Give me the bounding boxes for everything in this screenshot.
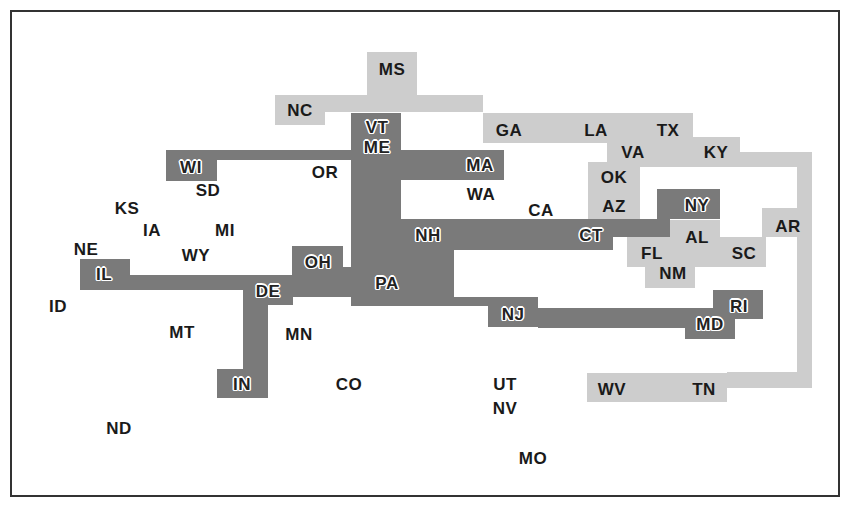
state-label-fl: FL <box>641 245 663 262</box>
state-label-ok: OK <box>601 169 628 186</box>
state-label-ct: CT <box>579 227 603 244</box>
dark-cluster-region <box>401 250 454 306</box>
light-cluster-region <box>797 152 812 388</box>
dark-cluster-region <box>538 308 685 328</box>
state-label-ny: NY <box>685 197 710 214</box>
state-label-wy: WY <box>182 247 210 264</box>
state-label-tx: TX <box>657 122 680 139</box>
state-label-sc: SC <box>732 245 757 262</box>
state-label-nv: NV <box>493 400 518 417</box>
state-label-nm: NM <box>659 265 686 282</box>
state-label-ia: IA <box>143 222 161 239</box>
dark-cluster-region <box>292 267 351 297</box>
state-label-oh: OH <box>305 254 332 271</box>
state-label-nh: NH <box>415 227 441 244</box>
state-label-md: MD <box>696 316 723 333</box>
dark-cluster-region <box>613 219 670 237</box>
state-label-ri: RI <box>730 298 748 315</box>
state-label-ca: CA <box>528 202 554 219</box>
state-label-ma: MA <box>466 157 493 174</box>
state-label-wv: WV <box>598 381 626 398</box>
state-label-il: IL <box>96 266 112 283</box>
state-label-wa: WA <box>467 186 495 203</box>
state-label-nj: NJ <box>502 306 525 323</box>
state-label-al: AL <box>685 229 709 246</box>
state-label-mi: MI <box>215 222 235 239</box>
state-label-ky: KY <box>704 144 729 161</box>
state-label-sd: SD <box>196 182 221 199</box>
state-label-tn: TN <box>692 381 716 398</box>
state-label-ut: UT <box>493 376 517 393</box>
state-label-mt: MT <box>169 324 195 341</box>
state-label-co: CO <box>336 376 363 393</box>
state-label-ms: MS <box>379 61 406 78</box>
state-label-nd: ND <box>106 420 132 437</box>
dark-cluster-region <box>454 297 488 306</box>
state-label-ga: GA <box>496 122 523 139</box>
state-label-va: VA <box>621 144 644 161</box>
dark-cluster-region <box>217 150 351 160</box>
state-label-ks: KS <box>115 200 140 217</box>
state-label-ar: AR <box>775 218 801 235</box>
state-label-wi: WI <box>180 159 202 176</box>
light-cluster-region <box>727 372 812 388</box>
state-label-az: AZ <box>602 198 626 215</box>
state-label-vt: VT <box>366 119 389 136</box>
state-label-nc: NC <box>287 102 313 119</box>
state-label-or: OR <box>312 164 339 181</box>
state-label-mo: MO <box>519 450 547 467</box>
state-label-de: DE <box>256 283 281 300</box>
state-label-mn: MN <box>285 326 312 343</box>
state-label-id: ID <box>49 298 67 315</box>
state-label-la: LA <box>584 122 608 139</box>
state-label-in: IN <box>233 376 251 393</box>
state-label-ne: NE <box>74 241 99 258</box>
state-label-me: ME <box>364 139 391 156</box>
state-label-pa: PA <box>375 275 398 292</box>
